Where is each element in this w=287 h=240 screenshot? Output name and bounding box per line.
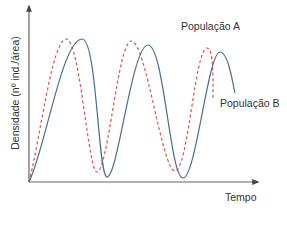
population-a-label: População A	[181, 20, 240, 32]
population-b-label: População B	[220, 97, 280, 109]
population-b-curve	[29, 39, 235, 182]
population-a-curve	[29, 39, 213, 182]
x-axis-label: Tempo	[225, 191, 257, 203]
y-axis-label: Densidade (nº ind./área)	[9, 36, 21, 150]
